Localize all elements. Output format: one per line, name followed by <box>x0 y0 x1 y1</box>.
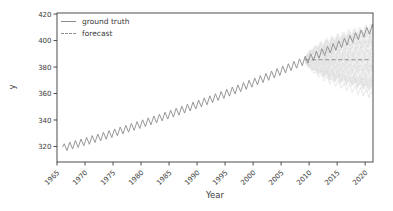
x-tick-label: 2010 <box>295 169 313 187</box>
x-tick-label: 2020 <box>351 169 369 187</box>
x-tick-label: 1995 <box>211 169 229 187</box>
y-tick-label: 320 <box>38 143 51 151</box>
x-axis: 1965197019751980198519901995200020052010… <box>43 162 369 187</box>
legend-label: forecast <box>82 29 112 38</box>
dashed-line-swatch-icon <box>61 33 76 34</box>
chart-plot: 1965197019751980198519901995200020052010… <box>0 0 393 211</box>
y-tick-label: 400 <box>38 37 51 45</box>
legend-entry-ground-truth: ground truth <box>61 17 129 26</box>
legend: ground truth forecast <box>61 17 129 38</box>
y-tick-label: 340 <box>38 117 51 125</box>
y-axis: 320340360380400420 <box>38 11 57 151</box>
x-tick-label: 1980 <box>127 169 145 187</box>
x-tick-label: 1975 <box>99 169 117 187</box>
x-tick-label: 1970 <box>71 169 89 187</box>
uncertainty-fan <box>305 23 372 98</box>
legend-label: ground truth <box>82 17 129 26</box>
x-tick-label: 2005 <box>267 169 285 187</box>
figure: 1965197019751980198519901995200020052010… <box>0 0 393 211</box>
y-axis-label: y <box>7 77 17 97</box>
legend-entry-forecast: forecast <box>61 29 129 38</box>
y-tick-label: 380 <box>38 64 51 72</box>
x-tick-label: 1990 <box>183 169 201 187</box>
x-tick-label: 2000 <box>239 169 257 187</box>
x-axis-label: Year <box>57 190 373 200</box>
solid-line-swatch-icon <box>61 21 76 22</box>
y-tick-label: 420 <box>38 11 51 19</box>
x-tick-label: 1965 <box>43 169 61 187</box>
x-tick-label: 2015 <box>323 169 341 187</box>
y-tick-label: 360 <box>38 90 51 98</box>
x-tick-label: 1985 <box>155 169 173 187</box>
